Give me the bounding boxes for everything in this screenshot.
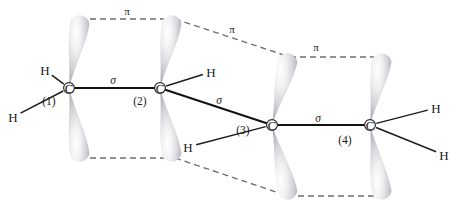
sigma-label-c2-c3: σ: [216, 94, 223, 106]
p-orbital-lobe-c1-down: [69, 88, 90, 162]
carbon-index-group: (1) (2) (3) (4): [42, 95, 352, 147]
atom-label-h1: H: [40, 63, 49, 78]
p-orbital-lobe-c4-up: [370, 53, 391, 125]
pi-interaction-group: [80, 19, 382, 196]
pi-label-c3-c4: π: [313, 41, 319, 53]
pi-label-c2-c3: π: [229, 23, 235, 35]
p-orbital-lobe-c3-down: [272, 125, 297, 200]
sigma-label-c3-c4: σ: [315, 112, 322, 124]
atom-label-c4: C: [366, 118, 375, 133]
diagram-canvas: C C C C (1) (2) (3) (4) H H H H H H σ σ …: [0, 0, 469, 205]
atom-index-c3: (3): [236, 124, 250, 137]
p-orbital-lobe-c2-up: [160, 15, 182, 88]
atom-label-h4: H: [183, 140, 192, 155]
atom-index-c4: (4): [338, 134, 352, 147]
p-orbital-lobe-c3-up: [272, 53, 297, 125]
atom-label-h5: H: [431, 101, 440, 116]
atom-label-c2: C: [156, 81, 165, 96]
pi-dashed-line-c2-c3-bottom: [175, 158, 288, 196]
p-orbital-lobe-c1-up: [69, 15, 90, 88]
atom-index-c2: (2): [133, 95, 147, 108]
bond-c3-h4: [196, 127, 265, 145]
sigma-label-c1-c2: σ: [110, 74, 117, 86]
bond-c2-h3: [166, 75, 203, 87]
pi-label-c1-c2: π: [124, 5, 130, 17]
pi-label-group: π π π: [124, 5, 319, 53]
bond-c4-h5: [376, 110, 427, 123]
atom-disc-group: [64, 83, 376, 131]
atom-label-c3: C: [268, 118, 277, 133]
atom-label-c1: C: [65, 81, 74, 96]
p-orbital-lobe-c4-down: [370, 125, 392, 200]
orbital-lobe-group: [69, 15, 392, 200]
bond-c4-h6: [376, 127, 436, 151]
atom-label-h3: H: [206, 65, 215, 80]
atom-index-c1: (1): [42, 95, 56, 108]
p-orbital-lobe-c2-down: [160, 88, 182, 162]
bond-c1-h1: [52, 75, 64, 84]
orbital-diagram: C C C C (1) (2) (3) (4) H H H H H H σ σ …: [0, 0, 469, 205]
atom-label-h2: H: [8, 110, 17, 125]
atom-label-h6: H: [439, 148, 448, 163]
